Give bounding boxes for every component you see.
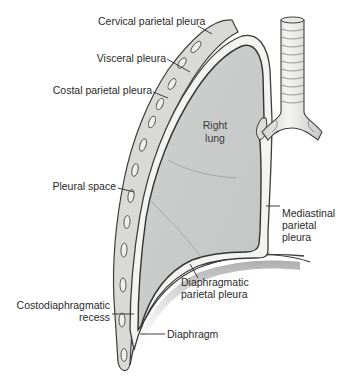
pleura-diagram: Cervical parietal pleura Visceral pleura…	[0, 0, 352, 390]
label-diaphragmatic-parietal-pleura: Diaphragmatic parietal pleura	[181, 276, 249, 300]
label-line: parietal pleura	[181, 288, 249, 300]
label-cervical-parietal-pleura: Cervical parietal pleura	[98, 15, 196, 27]
label-right-lung: Right lung	[195, 119, 235, 145]
label-line: pleura	[282, 231, 335, 243]
label-costal-parietal-pleura: Costal parietal pleura	[40, 84, 152, 96]
label-line: Mediastinal	[282, 207, 335, 219]
label-pleural-space: Pleural space	[30, 180, 116, 192]
label-line: lung	[195, 132, 235, 145]
label-line: recess	[4, 311, 110, 323]
label-costodiaphragmatic-recess: Costodiaphragmatic recess	[4, 299, 110, 323]
label-line: Diaphragmatic	[181, 276, 249, 288]
label-line: Costodiaphragmatic	[4, 299, 110, 311]
label-diaphragm: Diaphragm	[167, 328, 218, 340]
label-mediastinal-parietal-pleura: Mediastinal parietal pleura	[282, 207, 335, 243]
label-line: parietal	[282, 219, 335, 231]
label-line: Right	[195, 119, 235, 132]
label-visceral-pleura: Visceral pleura	[80, 52, 166, 64]
